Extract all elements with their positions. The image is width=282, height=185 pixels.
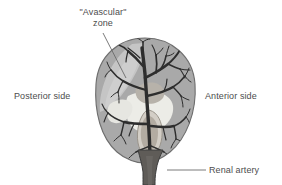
label-renal-artery: Renal artery [209,165,259,176]
label-anterior-side: Anterior side [205,91,257,102]
label-avascular-zone-line1: "Avascular" [80,7,127,17]
label-avascular-zone: "Avascular" zone [61,7,145,29]
label-posterior-side: Posterior side [14,91,70,102]
label-avascular-zone-line2: zone [93,18,113,28]
kidney-anatomy-figure: "Avascular" zone Posterior side Anterior… [0,0,282,185]
